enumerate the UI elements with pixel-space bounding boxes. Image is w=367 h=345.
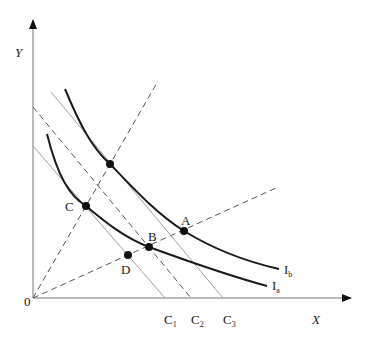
- budget-line-c3: [51, 92, 223, 298]
- y-axis-label: Y: [15, 45, 24, 60]
- curve-label-ib: Ib: [284, 262, 292, 279]
- budget-line-c2: [33, 107, 191, 298]
- point-b: [145, 243, 153, 251]
- point-label-c: C: [65, 199, 74, 214]
- point-a: [180, 227, 188, 235]
- point-label-d: D: [121, 262, 130, 277]
- budget-label-c3: C3: [223, 312, 236, 329]
- budget-line-c1: [33, 146, 165, 298]
- point-label-a: A: [181, 213, 191, 228]
- budget-label-c1: C1: [164, 312, 177, 329]
- curve-label-ia: Ia: [272, 278, 280, 295]
- steep-ray: [33, 81, 158, 298]
- point-label-b: B: [148, 229, 157, 244]
- x-axis-label: X: [311, 312, 321, 327]
- point-e: [106, 160, 114, 168]
- origin-label: 0: [24, 294, 31, 309]
- point-d: [124, 251, 132, 259]
- indifference-curve-ib: [65, 89, 279, 269]
- point-c: [82, 202, 90, 210]
- budget-label-c2: C2: [191, 312, 204, 329]
- indifference-curve-diagram: C A B D Ib Ia C1 C2 C3 0 X Y: [0, 0, 367, 345]
